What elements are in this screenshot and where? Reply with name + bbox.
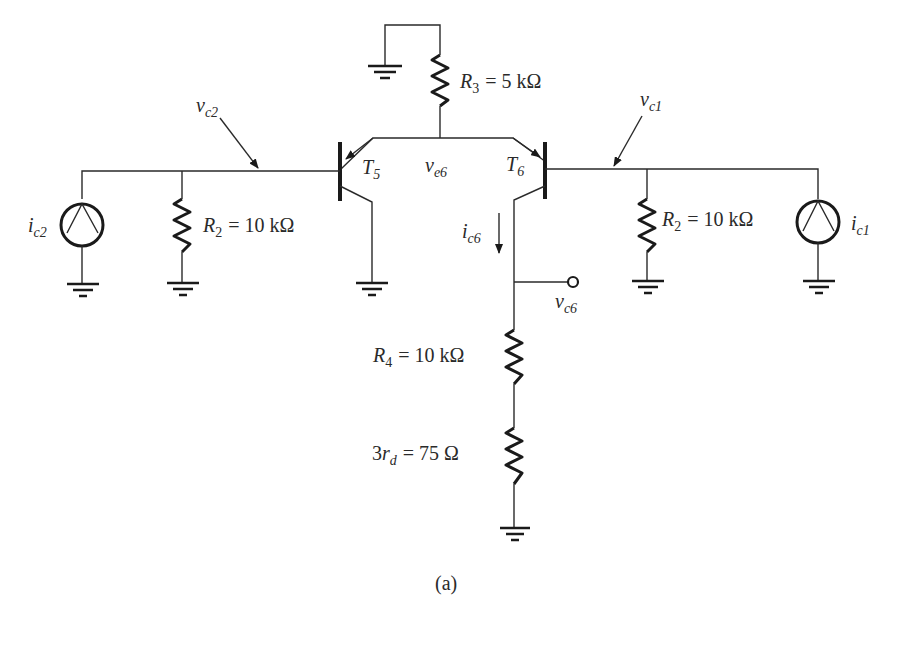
r4-label: R4= 10 kΩ xyxy=(372,344,464,370)
r2-left-label: R2= 10 kΩ xyxy=(202,214,294,240)
ic1-label: ic1 xyxy=(851,212,870,238)
ic2-label: ic2 xyxy=(28,214,47,240)
resistor-r2-right-icon xyxy=(639,199,655,252)
resistor-r4-icon xyxy=(506,330,522,384)
resistor-r2-left-icon xyxy=(174,199,190,252)
ground-icon xyxy=(67,284,99,296)
t5-collector-wire xyxy=(340,186,372,283)
vc6-terminal-icon xyxy=(568,277,578,287)
ground-icon xyxy=(368,66,402,78)
left-base-wire xyxy=(82,171,340,199)
transistor-t6 xyxy=(514,142,545,282)
vc2-pointer-arrow-icon xyxy=(220,118,258,168)
resistor-rd-icon xyxy=(506,428,522,484)
ground-icon xyxy=(356,283,388,295)
vc1-label: vc1 xyxy=(640,88,662,114)
circuit-diagram: R3= 5 kΩ ve6 T5 T6 vc2 xyxy=(0,0,897,651)
r3-label: R3= 5 kΩ xyxy=(459,70,541,96)
current-source-ic2-icon xyxy=(61,204,103,246)
ground-icon xyxy=(632,281,664,293)
r3-ground-loop xyxy=(368,25,448,138)
resistor-r3-icon xyxy=(432,55,448,106)
vc6-label: vc6 xyxy=(555,290,577,316)
ic6-label: ic6 xyxy=(462,220,481,246)
ground-icon xyxy=(803,281,835,293)
vc1-pointer-arrow-icon xyxy=(614,116,642,166)
figure-caption: (a) xyxy=(435,572,457,595)
t5-label: T5 xyxy=(362,156,380,182)
rd-label: 3rd= 75 Ω xyxy=(372,442,459,468)
ve6-label: ve6 xyxy=(425,154,447,180)
t6-label: T6 xyxy=(506,153,524,179)
ground-icon xyxy=(167,283,199,295)
right-base-wire xyxy=(545,169,818,199)
current-source-ic1-icon xyxy=(797,201,839,243)
ground-icon xyxy=(500,528,530,540)
vc2-label: vc2 xyxy=(196,94,218,120)
t6-collector-wire xyxy=(514,186,545,282)
r2-right-label: R2= 10 kΩ xyxy=(661,208,753,234)
